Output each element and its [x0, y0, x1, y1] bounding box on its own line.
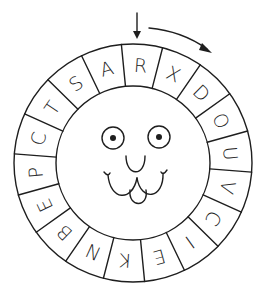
- inner-ring: [56, 86, 210, 240]
- wheel-letter: P: [24, 166, 47, 180]
- right-pupil: [156, 134, 162, 140]
- mouth-left: [104, 172, 137, 195]
- wheel-letter: B: [52, 221, 76, 245]
- segment-divider: [121, 45, 125, 87]
- wheel-letter: V: [216, 178, 241, 196]
- wheel-letter: O: [208, 109, 234, 132]
- wheel-letter: R: [133, 54, 148, 77]
- mouth-right: [137, 170, 167, 194]
- face: [102, 126, 170, 204]
- wheel-letter: N: [81, 239, 103, 265]
- clockwise-arrow-icon: [149, 28, 212, 53]
- wheel-letter: S: [65, 71, 88, 96]
- wheel-letter: K: [118, 249, 133, 272]
- segment-divider: [152, 48, 162, 89]
- segment-divider: [103, 238, 113, 279]
- wheel-letter: C: [201, 207, 227, 230]
- left-pupil: [110, 135, 116, 141]
- outer-ring: [14, 44, 252, 282]
- wheel-letter: D: [189, 80, 215, 106]
- segment-divider: [210, 169, 252, 172]
- wheel-letter: U: [219, 145, 242, 161]
- wheel-letter: X: [163, 61, 184, 86]
- wheel-letter: E: [32, 195, 57, 215]
- segment-divider: [207, 131, 247, 142]
- cipher-wheel: RXDOUVCIEKNBEPCTSA: [0, 0, 265, 302]
- segment-dividers: [14, 45, 251, 282]
- segment-divider: [166, 232, 184, 270]
- start-arrow: [133, 13, 141, 39]
- wheel-letter: E: [151, 245, 168, 269]
- segment-divider: [141, 240, 145, 282]
- segment-divider: [14, 154, 56, 157]
- wheel-letter: A: [97, 56, 115, 81]
- nose: [126, 156, 145, 172]
- eyes: [102, 126, 170, 149]
- wheel-letter: C: [26, 129, 51, 147]
- wheel-letter: T: [40, 96, 65, 118]
- segment-divider: [18, 184, 58, 195]
- wheel-letter: I: [181, 232, 198, 253]
